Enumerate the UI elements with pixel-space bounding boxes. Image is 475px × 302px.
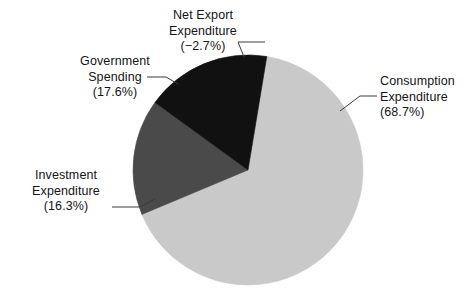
slice-label-line-2: Expenditure <box>380 90 455 106</box>
slice-label-line-2: Spending <box>60 70 170 86</box>
slice-label-government-spending: Government Spending (17.6%) <box>60 54 170 101</box>
slice-label-value: (68.7%) <box>380 105 455 121</box>
slice-label-net-export-expenditure: Net Export Expenditure (−2.7%) <box>139 8 267 55</box>
slice-label-investment-expenditure: Investment Expenditure (16.3%) <box>6 168 126 215</box>
slice-label-line-1: Investment <box>6 168 126 184</box>
pie-chart: Consumption Expenditure (68.7%) Net Expo… <box>0 0 475 302</box>
slice-label-line-1: Government <box>60 54 170 70</box>
slice-label-consumption-expenditure: Consumption Expenditure (68.7%) <box>380 74 455 121</box>
slice-label-line-1: Net Export <box>139 8 267 24</box>
slice-label-line-2: Expenditure <box>6 184 126 200</box>
slice-label-value: (−2.7%) <box>139 39 267 55</box>
slice-label-value: (16.3%) <box>6 199 126 215</box>
slice-label-value: (17.6%) <box>60 85 170 101</box>
slice-label-line-1: Consumption <box>380 74 455 90</box>
slice-label-line-2: Expenditure <box>139 24 267 40</box>
